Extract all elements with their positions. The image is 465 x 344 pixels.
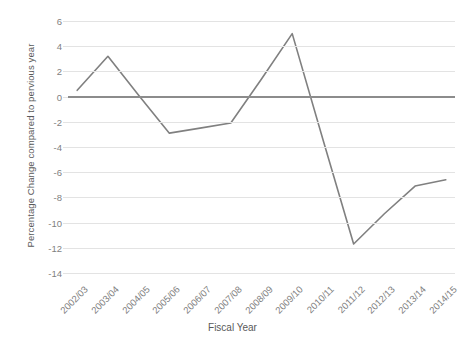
y-tick-mark [63, 46, 68, 47]
x-tick-label: 2011/12 [330, 284, 366, 320]
gridline [68, 46, 455, 47]
gridline [68, 273, 455, 274]
series-line [77, 34, 446, 244]
x-tick-label: 2007/08 [208, 284, 244, 320]
x-tick-label: 2006/07 [177, 284, 213, 320]
y-tick-mark [63, 97, 68, 98]
y-tick-label: -8 [26, 192, 62, 203]
y-tick-label: 6 [26, 16, 62, 27]
x-tick-label: 2010/11 [300, 284, 336, 320]
y-tick-label: -14 [26, 268, 62, 279]
x-tick-label: 2003/04 [85, 284, 121, 320]
plot-area [68, 21, 455, 273]
x-tick-label: 2002/03 [54, 284, 90, 320]
y-tick-label: -4 [26, 142, 62, 153]
x-tick-label: 2014/15 [423, 284, 459, 320]
x-axis-title: Fiscal Year [0, 322, 465, 333]
x-tick-label: 2008/09 [238, 284, 274, 320]
y-tick-label: -10 [26, 217, 62, 228]
gridline [68, 71, 455, 72]
y-tick-label: 2 [26, 66, 62, 77]
y-tick-mark [63, 223, 68, 224]
gridline [68, 122, 455, 123]
gridline [68, 21, 455, 22]
y-tick-label: -12 [26, 242, 62, 253]
x-tick-label: 2005/06 [146, 284, 182, 320]
y-tick-label: -6 [26, 167, 62, 178]
y-tick-label: 4 [26, 41, 62, 52]
y-tick-mark [63, 147, 68, 148]
y-tick-mark [63, 71, 68, 72]
line-chart: Percentage Change compared to pervious y… [0, 0, 465, 344]
y-tick-label: -2 [26, 116, 62, 127]
x-tick-label: 2013/14 [392, 284, 428, 320]
x-tick-label: 2004/05 [115, 284, 151, 320]
y-tick-mark [63, 122, 68, 123]
y-tick-mark [63, 21, 68, 22]
gridline [68, 197, 455, 198]
y-tick-mark [63, 197, 68, 198]
y-tick-mark [63, 172, 68, 173]
gridline [68, 248, 455, 249]
gridline [68, 223, 455, 224]
y-tick-mark [63, 273, 68, 274]
gridline [68, 172, 455, 173]
y-tick-mark [63, 248, 68, 249]
y-tick-label: 0 [26, 91, 62, 102]
x-tick-label: 2009/10 [269, 284, 305, 320]
gridline [68, 147, 455, 148]
zero-line [68, 96, 455, 98]
x-tick-label: 2012/13 [361, 284, 397, 320]
